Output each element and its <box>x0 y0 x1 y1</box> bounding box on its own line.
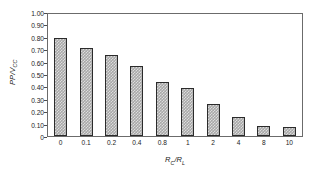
y-axis-tick-labels: 00.100.200.300.400.500.600.700.800.901.0… <box>18 13 44 137</box>
y-axis-tick-mark <box>44 75 47 76</box>
x-axis-title: RC/RL <box>47 155 303 166</box>
bar-slot <box>124 14 149 136</box>
y-axis-tick-label: 1.00 <box>18 10 44 17</box>
bar-slot <box>175 14 200 136</box>
y-axis-tick-mark <box>44 13 47 14</box>
bar-series <box>48 14 302 136</box>
y-axis-title-slash: / <box>8 73 17 75</box>
y-axis-title-v: V <box>8 68 17 73</box>
y-axis-tick-label: 0.40 <box>18 84 44 91</box>
x-axis-tick-label: 0.4 <box>124 139 149 146</box>
bar <box>130 66 143 136</box>
bar <box>257 126 270 136</box>
y-axis-tick-mark <box>44 87 47 88</box>
bar <box>105 55 118 136</box>
bar-slot <box>226 14 251 136</box>
y-axis-tick-mark <box>44 63 47 64</box>
bar <box>156 82 169 136</box>
y-axis-tick-label: 0.90 <box>18 22 44 29</box>
y-axis-tick-label: 0.70 <box>18 47 44 54</box>
x-axis-tick-label: 8 <box>251 139 276 146</box>
bar-slot <box>200 14 225 136</box>
x-axis-tick-label: 0 <box>48 139 73 146</box>
bar-slot <box>150 14 175 136</box>
bar <box>283 127 296 136</box>
bar <box>232 117 245 136</box>
bar-slot <box>99 14 124 136</box>
x-axis-tick-label: 0.2 <box>99 139 124 146</box>
y-axis-tick-label: 0.80 <box>18 34 44 41</box>
y-axis-tick-mark <box>44 137 47 138</box>
y-axis-tick-label: 0.60 <box>18 59 44 66</box>
x-axis-tick-label: 4 <box>226 139 251 146</box>
bar-chart-figure: PP/VCC 00.100.200.300.400.500.600.700.80… <box>0 0 312 177</box>
bar <box>181 88 194 136</box>
bar <box>80 48 93 136</box>
x-axis-tick-label: 0.8 <box>150 139 175 146</box>
y-axis-tick-mark <box>44 38 47 39</box>
y-axis-tick-label: 0 <box>18 134 44 141</box>
y-axis-tick-mark <box>44 100 47 101</box>
x-axis-tick-labels: 00.10.20.40.8124810 <box>48 139 302 146</box>
y-axis-tick-label: 0.20 <box>18 109 44 116</box>
x-axis-title-rl-subscript: L <box>182 160 185 166</box>
x-axis-tick-label: 10 <box>277 139 302 146</box>
y-axis-tick-label: 0.30 <box>18 96 44 103</box>
bar-slot <box>277 14 302 136</box>
bar <box>207 104 220 136</box>
y-axis-tick-mark <box>44 112 47 113</box>
y-axis-tick-label: 0.10 <box>18 121 44 128</box>
y-axis-tick-mark <box>44 50 47 51</box>
x-axis-tick-label: 1 <box>175 139 200 146</box>
bar-slot <box>251 14 276 136</box>
y-axis-tick-label: 0.50 <box>18 72 44 79</box>
x-axis-tick-label: 2 <box>200 139 225 146</box>
bar-slot <box>48 14 73 136</box>
x-axis-tick-label: 0.1 <box>73 139 98 146</box>
y-axis-title-pp: PP <box>8 75 17 85</box>
bar-slot <box>73 14 98 136</box>
y-axis-tick-mark <box>44 125 47 126</box>
bar <box>54 38 67 136</box>
y-axis-title-text: PP/VCC <box>8 60 19 86</box>
y-axis-tick-mark <box>44 25 47 26</box>
